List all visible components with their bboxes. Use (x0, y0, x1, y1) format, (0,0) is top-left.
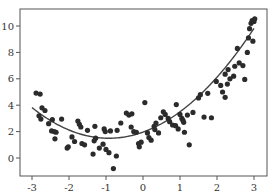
data-point (139, 140, 144, 145)
x-tick-label: -3 (27, 182, 37, 193)
data-point (42, 108, 47, 113)
data-point (69, 134, 74, 139)
data-point (53, 130, 58, 135)
data-point (223, 95, 228, 100)
data-point (176, 126, 181, 131)
data-point (226, 67, 231, 72)
data-point (161, 109, 166, 114)
data-point (85, 128, 90, 133)
x-axis-ticks: -3-2-10123 (27, 176, 257, 193)
data-point (52, 136, 57, 141)
data-points (33, 16, 257, 171)
data-point (38, 92, 43, 97)
data-point (231, 74, 236, 79)
data-point (235, 46, 240, 51)
data-point (218, 83, 223, 88)
data-point (72, 139, 77, 144)
data-point (156, 130, 161, 135)
data-point (137, 144, 142, 149)
plot-frame (20, 9, 267, 176)
data-point (129, 111, 134, 116)
x-tick-label: -2 (64, 182, 74, 193)
data-point (209, 115, 214, 120)
data-point (198, 92, 203, 97)
data-point (252, 16, 257, 21)
data-point (232, 64, 237, 69)
data-point (187, 142, 192, 147)
data-point (174, 102, 179, 107)
data-point (158, 115, 163, 120)
data-point (145, 130, 150, 135)
x-tick-label: 3 (251, 182, 257, 193)
data-point (106, 150, 111, 155)
data-point (246, 35, 251, 40)
data-point (118, 120, 123, 125)
data-point (181, 120, 186, 125)
data-point (245, 50, 250, 55)
data-point (100, 142, 105, 147)
y-tick-label: 2 (8, 126, 14, 137)
y-tick-label: 10 (1, 21, 14, 32)
data-point (223, 72, 228, 77)
data-point (134, 130, 139, 135)
data-point (108, 128, 113, 133)
data-point (201, 114, 206, 119)
data-point (190, 110, 195, 115)
data-point (250, 39, 255, 44)
y-tick-label: 0 (8, 153, 14, 164)
data-point (103, 129, 108, 134)
data-point (92, 124, 97, 129)
data-point (185, 113, 190, 118)
data-point (182, 130, 187, 135)
data-point (111, 166, 116, 171)
data-point (78, 124, 83, 129)
data-point (205, 91, 210, 96)
data-point (115, 128, 120, 133)
data-point (142, 100, 147, 105)
data-point (38, 116, 43, 121)
data-point (242, 77, 247, 82)
data-point (92, 138, 97, 143)
data-point (220, 89, 225, 94)
data-point (240, 63, 245, 68)
data-point (59, 116, 64, 121)
data-point (65, 146, 70, 151)
data-point (97, 146, 102, 151)
data-point (153, 120, 158, 125)
y-axis-ticks: 0246810 (1, 21, 20, 164)
data-point (214, 79, 219, 84)
x-tick-label: 1 (177, 182, 183, 193)
x-tick-label: -1 (101, 182, 111, 193)
data-point (114, 153, 119, 158)
x-tick-label: 0 (140, 182, 146, 193)
x-tick-label: 2 (214, 182, 220, 193)
data-point (82, 142, 87, 147)
data-point (90, 151, 95, 156)
data-point (247, 26, 252, 31)
data-point (225, 81, 230, 86)
y-tick-label: 6 (8, 73, 14, 84)
data-point (46, 121, 51, 126)
data-point (129, 124, 134, 129)
data-point (149, 138, 154, 143)
y-tick-label: 4 (8, 100, 14, 111)
scatter-chart: -3-2-10123 0246810 (0, 0, 275, 196)
data-point (50, 117, 55, 122)
y-tick-label: 8 (8, 47, 14, 58)
